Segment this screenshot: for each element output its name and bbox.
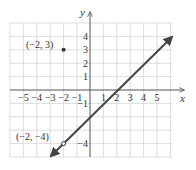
svg-text:4: 4 [141, 92, 146, 103]
svg-text:−2: −2 [58, 92, 69, 103]
y-axis-label: y [79, 6, 85, 18]
svg-text:3: 3 [128, 92, 133, 103]
x-tick-labels: −5 −4 −3 −2 −1 1 2 3 4 5 [18, 92, 159, 103]
svg-text:3: 3 [83, 44, 88, 55]
svg-text:5: 5 [155, 92, 160, 103]
svg-text:−5: −5 [18, 92, 29, 103]
svg-text:−3: −3 [45, 92, 56, 103]
svg-text:4: 4 [83, 31, 88, 42]
svg-text:−4: −4 [77, 138, 88, 149]
svg-text:2: 2 [83, 58, 88, 69]
point-neg2-neg4-label: (−2, −4) [16, 131, 49, 143]
svg-text:−4: −4 [31, 92, 42, 103]
x-axis-label: x [179, 92, 185, 104]
svg-text:−1: −1 [77, 98, 88, 109]
svg-text:1: 1 [83, 71, 88, 82]
coordinate-plane: x y −5 −4 −3 −2 −1 1 2 3 4 5 4 3 2 1 −1 … [0, 0, 196, 170]
point-neg2-3-label: (−2, 3) [26, 39, 53, 51]
point-neg2-3 [62, 48, 66, 52]
point-neg2-neg4 [62, 142, 66, 146]
